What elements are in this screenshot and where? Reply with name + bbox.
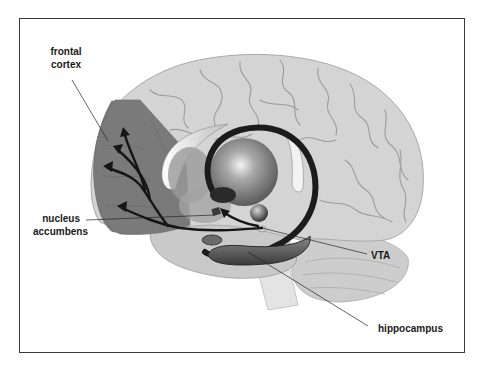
label-hippocampus: hippocampus [378,322,443,335]
small-nucleus-sphere [250,204,268,222]
label-nucleus-accumbens: nucleus accumbens [26,212,88,238]
label-frontal-cortex-line2: cortex [44,58,88,71]
label-nucleus-accumbens-line2: accumbens [26,225,88,238]
label-vta: VTA [371,249,390,262]
label-frontal-cortex-line1: frontal [44,45,88,58]
label-nucleus-accumbens-line1: nucleus [26,212,88,225]
label-frontal-cortex: frontal cortex [44,45,88,71]
